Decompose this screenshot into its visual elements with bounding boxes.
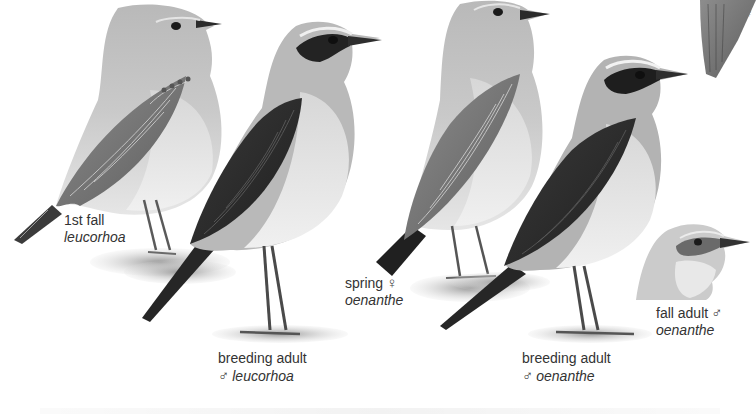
caption-1st-fall-leucorhoa: 1st fall leucorhoa: [64, 212, 126, 246]
male-symbol-icon: ♂: [711, 304, 722, 321]
faded-bottom-text-row: [40, 408, 720, 414]
caption-line-subspecies: leucorhoa: [64, 229, 126, 246]
caption-line-plumage: fall adult♂: [656, 304, 722, 322]
female-symbol-icon: ♀: [744, 4, 754, 21]
field-guide-plate: 1st fall leucorhoa breeding adult ♂leuco…: [0, 0, 756, 416]
caption-line-subspecies: ♂oenanthe: [522, 367, 611, 385]
male-symbol-icon: ♂: [218, 367, 229, 384]
caption-line-subspecies: oenanthe: [656, 322, 722, 339]
plumage-name: fall adult: [656, 305, 708, 321]
bird-fall-adult-male-oenanthe-head: [636, 224, 750, 300]
caption-fall-adult-male-oenanthe: fall adult♂ oenanthe: [656, 304, 722, 339]
caption-partial-female: ♀: [744, 4, 754, 21]
caption-breeding-adult-male-leucorhoa: breeding adult ♂leucorhoa: [218, 350, 307, 385]
bird-illustrations: [0, 0, 756, 416]
caption-line-subspecies: ♂leucorhoa: [218, 367, 307, 385]
caption-line-plumage: breeding adult: [522, 350, 611, 367]
male-symbol-icon: ♂: [522, 367, 533, 384]
female-symbol-icon: ♀: [386, 274, 397, 291]
caption-line-plumage: spring♀: [345, 274, 403, 292]
plumage-name: spring: [345, 275, 383, 291]
caption-breeding-adult-male-oenanthe: breeding adult ♂oenanthe: [522, 350, 611, 385]
caption-line-plumage: 1st fall: [64, 212, 126, 229]
subspecies-name: oenanthe: [536, 368, 594, 384]
caption-spring-female-oenanthe: spring♀ oenanthe: [345, 274, 403, 309]
subspecies-name: leucorhoa: [232, 368, 294, 384]
caption-line-plumage: breeding adult: [218, 350, 307, 367]
caption-line-subspecies: oenanthe: [345, 292, 403, 309]
